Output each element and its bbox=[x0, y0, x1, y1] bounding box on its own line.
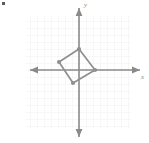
vertex-point-top bbox=[77, 47, 81, 51]
coordinate-plot bbox=[0, 0, 149, 143]
vertex-point-left bbox=[57, 60, 61, 64]
x-axis-label: x bbox=[141, 74, 144, 81]
vertex-point-right bbox=[93, 68, 97, 72]
corner-artifact-mark bbox=[2, 2, 5, 5]
y-axis-label: y bbox=[84, 2, 87, 9]
vertex-point-bottom bbox=[71, 81, 75, 85]
coordinate-plane-figure: y x bbox=[0, 0, 149, 143]
